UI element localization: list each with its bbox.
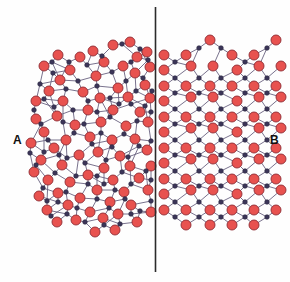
silicon-atom [197,215,202,220]
silicon-atom [149,139,154,144]
oxygen-atom [78,87,88,97]
silicon-atom [28,151,33,156]
oxygen-atom [93,147,103,157]
silicon-atom [99,131,104,136]
oxygen-atom [58,96,68,106]
oxygen-atom [53,50,63,60]
silicon-atom [61,120,66,125]
silicon-atom [197,169,202,174]
silicon-atom [53,171,58,176]
oxygen-atom [125,161,135,171]
silicon-atom [265,153,270,158]
oxygen-atom [227,50,237,60]
oxygen-atom [159,189,169,199]
oxygen-atom [181,81,191,91]
oxygen-atom [271,112,281,122]
oxygen-atom [83,170,93,180]
silicon-atom [100,54,105,59]
oxygen-atom [142,47,152,57]
silicon-atom [122,132,127,137]
silicon-atom [149,178,154,183]
oxygen-atom [145,62,155,72]
silicon-atom [56,200,61,205]
silicon-atom [57,153,62,158]
silicon-atom [86,99,91,104]
oxygen-atom [113,209,123,219]
silicon-atom [197,184,202,189]
oxygen-atom [276,61,286,71]
oxygen-atom [135,107,145,117]
silicon-atom [219,153,224,158]
silicon-atom [265,215,270,220]
oxygen-atom [249,112,259,122]
silicon-atom [243,107,248,112]
oxygen-atom [26,138,36,148]
silicon-atom [45,199,50,204]
oxygen-atom [181,220,191,230]
oxygen-atom [108,40,118,50]
silicon-atom [95,84,100,89]
silicon-atom [197,46,202,51]
oxygen-atom [276,185,286,195]
oxygen-atom [232,158,242,168]
oxygen-atom [181,205,191,215]
oxygen-atom [34,191,44,201]
oxygen-atom [31,96,41,106]
oxygen-atom [44,86,54,96]
oxygen-atom [142,145,152,155]
silicon-atom [42,150,47,155]
oxygen-atom [208,123,218,133]
oxygen-atom [205,112,215,122]
oxygen-atom [159,112,169,122]
silicon-atom [85,63,90,68]
silicon-atom [197,200,202,205]
oxygen-atom [249,220,259,230]
oxygen-atom [271,35,281,45]
silicon-atom [108,115,113,120]
oxygen-atom [276,154,286,164]
oxygen-atom [205,220,215,230]
silicon-atom [138,209,143,214]
silicon-atom [143,104,148,109]
structure-diagram: A B [0,0,290,282]
oxygen-atom [140,80,150,90]
silicon-atom [129,182,134,187]
silicon-atom [265,76,270,81]
silicon-atom [197,76,202,81]
oxygen-atom [227,112,237,122]
oxygen-atom [227,81,237,91]
silicon-atom [95,174,100,179]
oxygen-atom [49,143,59,153]
silicon-atom [39,122,44,127]
silicon-atom [243,200,248,205]
oxygen-atom [55,75,65,85]
silicon-atom [126,155,131,160]
silicon-atom [76,79,81,84]
oxygen-atom [159,96,169,106]
silicon-atom [150,89,155,94]
silicon-atom [120,170,125,175]
silicon-atom [243,169,248,174]
silicon-atom [173,76,178,81]
oxygen-atom [29,167,39,177]
silicon-atom [265,107,270,112]
oxygen-atom [271,174,281,184]
silicon-atom [219,169,224,174]
oxygen-atom [123,92,133,102]
oxygen-atom [74,150,84,160]
region-label-a: A [13,134,22,146]
oxygen-atom [159,143,169,153]
silicon-atom [265,200,270,205]
oxygen-atom [113,83,123,93]
oxygen-atom [145,93,155,103]
silicon-atom [149,110,154,115]
oxygen-atom [75,193,85,203]
silicon-atom [107,206,112,211]
oxygen-atom [130,68,140,78]
oxygen-atom [53,188,63,198]
oxygen-atom [88,46,98,56]
silicon-atom [173,91,178,96]
oxygen-atom [107,135,117,145]
silicon-atom [83,220,88,225]
silicon-atom [173,184,178,189]
